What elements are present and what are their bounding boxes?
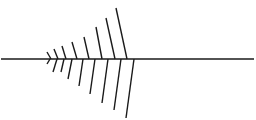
upper-bone bbox=[72, 42, 77, 59]
herringbone-diagram bbox=[0, 0, 256, 120]
lower-bone bbox=[68, 59, 72, 79]
lower-bone bbox=[90, 59, 95, 94]
lower-bone bbox=[61, 59, 64, 72]
upper-bone bbox=[47, 52, 51, 59]
lower-bone bbox=[114, 59, 121, 110]
upper-bone bbox=[116, 8, 127, 59]
lower-bone bbox=[102, 59, 108, 103]
lower-bone bbox=[47, 59, 50, 64]
upper-bone bbox=[106, 18, 115, 59]
lower-bone bbox=[79, 59, 83, 86]
lower-bones bbox=[47, 59, 134, 118]
upper-bones bbox=[47, 8, 127, 59]
upper-bone bbox=[96, 27, 102, 59]
diagram-canvas bbox=[0, 0, 256, 120]
upper-bone bbox=[54, 49, 58, 59]
upper-bone bbox=[62, 46, 66, 59]
lower-bone bbox=[126, 59, 134, 118]
upper-bone bbox=[84, 37, 89, 59]
lower-bone bbox=[53, 59, 57, 72]
